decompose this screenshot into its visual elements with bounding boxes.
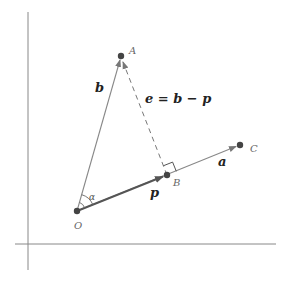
right-angle-marker [163,162,176,171]
label-O: O [74,220,82,231]
point-B [164,172,170,178]
point-O [74,208,80,214]
projection-diagram: O A B C b a p e = b − p α [0,0,286,281]
angle-arc-alpha [80,202,85,208]
vector-e-dashed-line [123,62,167,175]
label-B: B [172,177,180,188]
label-angle-alpha: α [89,192,95,202]
label-vector-p: p [150,185,159,200]
point-A [118,53,124,59]
label-C: C [250,143,258,154]
label-vector-e-equation: e = b − p [145,91,211,106]
label-A: A [128,45,136,56]
point-C [237,142,243,148]
label-vector-b: b [95,80,104,95]
label-vector-a: a [218,154,226,169]
